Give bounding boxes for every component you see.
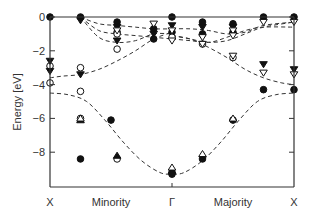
band-curve [81,17,173,43]
circle-filled-marker [77,156,84,163]
band-curve [81,17,173,39]
triangle-down-filled-marker [77,18,85,24]
triangle-down-open-marker [168,38,176,44]
data-markers [46,14,298,178]
y-tick-label: −2 [32,45,45,57]
y-tick-label: 0 [39,11,45,23]
triangle-down-filled-marker [77,72,85,78]
x-label-minority: Minority [92,196,131,208]
y-tick-label: −6 [32,112,45,124]
triangle-up-open-marker [199,150,207,156]
band-structure-chart: 0−2−4−6−8 Energy [eV] X Minority Γ Major… [0,0,315,218]
triangle-down-open-marker [260,19,268,25]
triangle-down-filled-marker [260,62,268,68]
triangle-down-open-marker [260,70,268,76]
band-curve [50,93,294,174]
y-tick-label: −4 [32,79,45,91]
x-label-x-right: X [290,196,298,208]
band-curve [81,17,173,29]
y-axis-title: Energy [eV] [11,73,23,130]
triangle-up-filled-marker [113,152,121,158]
circle-filled-marker [108,117,115,124]
x-label-gamma: Γ [169,196,175,208]
triangle-down-open-marker [199,35,207,41]
x-label-majority: Majority [214,196,253,208]
triangle-down-filled-marker [199,24,207,30]
triangle-up-open-marker [168,164,176,170]
triangle-down-filled-marker [113,38,121,44]
circle-open-marker [77,88,84,95]
circle-filled-marker [260,86,267,93]
y-tick-label: −8 [32,146,45,158]
x-label-x-left: X [46,196,54,208]
circle-open-marker [77,64,84,71]
circle-open-marker [114,46,121,53]
